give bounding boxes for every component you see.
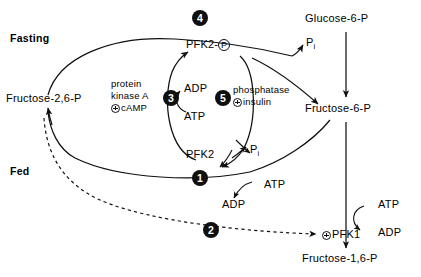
arc-step4-to-pi [292, 45, 303, 56]
enzyme-pfk1-group: PFK1 [322, 228, 360, 241]
arrow-pi-lower [232, 147, 246, 158]
step-badge-2[interactable]: 2 [203, 222, 219, 238]
phosphatase-activator: insulin [243, 96, 271, 107]
pi-subscript-middle: i [258, 149, 260, 158]
protein-kinase-a-activator: cAMP [121, 102, 147, 113]
pathway-diagram: PFK1 --> Fasting Fed Fructose-2,6-P PFK2… [0, 0, 421, 277]
cofactor-atp-kinase: ATP [184, 110, 205, 123]
enzyme-pfk2-phospho: PFK2-P [186, 38, 230, 51]
enzyme-pfk2: PFK2 [186, 148, 214, 161]
metabolite-fructose-1-6-p: Fructose-1,6-P [302, 252, 378, 265]
cofactor-pi-middle: Pi [250, 143, 259, 159]
step-badge-3[interactable]: 3 [163, 90, 179, 106]
plus-circle-icon-insulin [233, 98, 242, 107]
arc-pfk2p-to-pfk2 [222, 56, 253, 167]
state-label-fed: Fed [10, 165, 30, 177]
step-badge-4[interactable]: 4 [192, 10, 208, 26]
pi-subscript-upper: i [314, 42, 316, 51]
arc-phosphatase-pi [236, 140, 250, 153]
cofactor-atp-pfk2: ATP [264, 178, 285, 191]
cofactor-adp-pfk1: ADP [378, 226, 401, 239]
protein-kinase-a-line2: kinase A [111, 90, 149, 102]
cofactor-atp-pfk1: ATP [378, 198, 399, 211]
cofactor-pi-upper: Pi [306, 36, 315, 52]
phosphate-group-icon: P [218, 39, 230, 51]
protein-kinase-a-activator-row: cAMP [111, 102, 149, 114]
enzyme-pfk2-phospho-text: PFK2- [186, 38, 218, 50]
protein-kinase-a-line1: protein [111, 78, 149, 90]
metabolite-glucose-6-p: Glucose-6-P [305, 12, 368, 25]
enzyme-pfk1: PFK1 [332, 228, 360, 240]
state-label-fasting: Fasting [10, 32, 49, 44]
step-badge-5[interactable]: 5 [215, 90, 231, 106]
step-badge-1[interactable]: 1 [192, 170, 208, 186]
arrow-into-pfk2 [220, 150, 232, 167]
phosphatase-label: phosphatase [233, 84, 290, 96]
pi-symbol-middle: P [250, 143, 258, 155]
dashed-activation-pfk1 [44, 118, 316, 234]
pi-symbol-upper: P [306, 36, 314, 48]
metabolite-fructose-2-6-p: Fructose-2,6-P [6, 92, 82, 105]
plus-circle-icon-pfk1 [322, 231, 331, 240]
arc-fed-lower [48, 112, 250, 178]
cofactor-adp-pfk2: ADP [222, 198, 245, 211]
plus-circle-icon-camp [111, 104, 120, 113]
arc-atp-to-adp-pfk2 [234, 182, 252, 198]
enzyme-protein-kinase-a: protein kinase A cAMP [111, 78, 149, 114]
cofactor-adp-kinase: ADP [184, 82, 207, 95]
arc-from-fructose-6p [250, 120, 330, 172]
arc-atp-to-adp-pfk1 [354, 206, 364, 230]
arc-pfk2-to-pfk2p [167, 52, 196, 160]
enzyme-phosphatase: phosphatase insulin [233, 84, 290, 108]
phosphatase-activator-row: insulin [233, 96, 290, 108]
metabolite-fructose-6-p: Fructose-6-P [305, 102, 371, 115]
